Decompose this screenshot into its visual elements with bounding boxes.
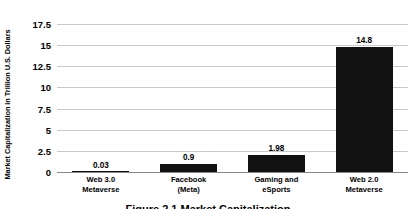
- bar-group: [72, 24, 129, 172]
- x-axis-category-label: Web 2.0Metaverse: [320, 175, 408, 194]
- y-axis-tick-label: 0: [0, 167, 51, 178]
- bar: [72, 171, 129, 172]
- y-axis-tick-label: 15: [0, 40, 51, 51]
- bar-series: 0.030.91.9814.8: [57, 24, 408, 172]
- category-label-line: (Meta): [145, 185, 233, 195]
- plot-area: 0.030.91.9814.8: [57, 24, 408, 172]
- figure-caption: Figure 2.1 Market Capitalization: [0, 203, 416, 209]
- category-label-line: eSports: [233, 185, 321, 195]
- category-label-line: Web 3.0: [57, 175, 145, 185]
- bar-value-label: 0.03: [72, 161, 129, 170]
- bar: [160, 164, 217, 172]
- category-label-line: Facebook: [145, 175, 233, 185]
- bar: [336, 47, 393, 172]
- category-label-line: Metaverse: [320, 185, 408, 195]
- y-axis-tick-label: 2.5: [0, 145, 51, 156]
- bar-group: [336, 24, 393, 172]
- bar-chart: Market Capitalization in Trillion U.S. D…: [0, 0, 416, 209]
- category-label-line: Metaverse: [57, 185, 145, 195]
- bar-value-label: 1.98: [248, 144, 305, 153]
- bar-value-label: 14.8: [336, 36, 393, 45]
- y-axis-tick-label: 12.5: [0, 61, 51, 72]
- bar: [248, 155, 305, 172]
- bar-group: [160, 24, 217, 172]
- x-axis-category-label: Gaming andeSports: [233, 175, 321, 194]
- y-axis-tick-label: 5: [0, 124, 51, 135]
- x-axis-category-labels: Web 3.0MetaverseFacebook(Meta)Gaming and…: [57, 175, 408, 199]
- y-axis-tick-label: 17.5: [0, 19, 51, 30]
- category-label-line: Gaming and: [233, 175, 321, 185]
- x-axis-category-label: Web 3.0Metaverse: [57, 175, 145, 194]
- bar-value-label: 0.9: [160, 153, 217, 162]
- x-axis-category-label: Facebook(Meta): [145, 175, 233, 194]
- y-axis-tick-label: 7.5: [0, 103, 51, 114]
- category-label-line: Web 2.0: [320, 175, 408, 185]
- axis-baseline: [57, 172, 408, 173]
- y-axis-tick-label: 10: [0, 82, 51, 93]
